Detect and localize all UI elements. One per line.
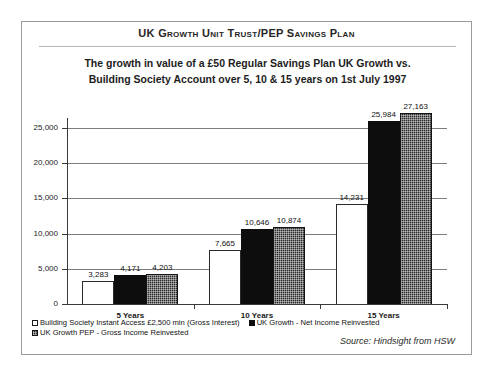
bar[interactable]: [114, 275, 146, 304]
y-axis-tick-label: 5,000: [0, 264, 58, 273]
legend-swatch-black-icon: [249, 320, 255, 326]
legend-swatch-checker-icon: [32, 330, 38, 336]
y-axis-tick-label: 25,000: [0, 123, 58, 132]
bar[interactable]: [368, 121, 400, 304]
x-axis-tick: [320, 304, 321, 309]
bar-value-label: 4,203: [132, 263, 192, 272]
legend-label-uk-growth-net: UK Growth - Net Income Reinvested: [257, 318, 380, 328]
chart-legend: Building Society Instant Access £2,500 m…: [32, 318, 467, 338]
y-axis-tick-label: 15,000: [0, 193, 58, 202]
chart-frame: UK Growth Unit Trust/PEP Savings Plan Th…: [21, 21, 472, 355]
y-axis-tick-label: 20,000: [0, 158, 58, 167]
legend-label-uk-growth-pep: UK Growth PEP - Gross Income Reinvested: [40, 328, 188, 338]
y-axis-tick-label: 0: [0, 299, 58, 308]
x-axis-line: [67, 304, 447, 305]
source-attribution: Source: Hindsight from HSW: [340, 336, 455, 346]
x-axis-tick: [447, 304, 448, 309]
legend-item-uk-growth-pep[interactable]: UK Growth PEP - Gross Income Reinvested: [32, 328, 188, 338]
bar-value-label: 27,163: [386, 102, 446, 111]
legend-swatch-white-icon: [32, 320, 38, 326]
bar[interactable]: [82, 281, 114, 304]
legend-label-building-society: Building Society Instant Access £2,500 m…: [40, 318, 240, 328]
bar[interactable]: [241, 229, 273, 304]
legend-item-building-society[interactable]: Building Society Instant Access £2,500 m…: [32, 318, 240, 328]
y-axis-tick-label: 10,000: [0, 229, 58, 238]
legend-item-uk-growth-net[interactable]: UK Growth - Net Income Reinvested: [249, 318, 380, 328]
x-axis-tick: [194, 304, 195, 309]
bar[interactable]: [336, 204, 368, 304]
bar[interactable]: [146, 274, 178, 304]
bar-value-label: 10,874: [259, 216, 319, 225]
plot-area: 05,00010,00015,00020,00025,000 3,2834,17…: [22, 22, 473, 356]
bar[interactable]: [273, 227, 305, 304]
bar[interactable]: [400, 113, 432, 304]
bar[interactable]: [209, 250, 241, 304]
legend-row-1: Building Society Instant Access £2,500 m…: [32, 318, 467, 328]
